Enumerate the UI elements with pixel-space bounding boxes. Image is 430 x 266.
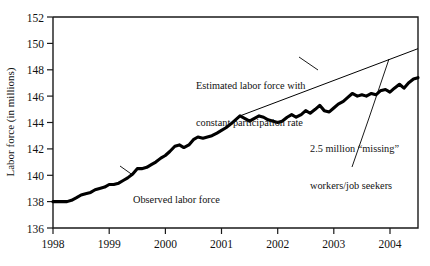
y-tick-142: 142 <box>27 143 45 155</box>
x-tick-2001: 2001 <box>210 238 233 250</box>
y-tick-152: 152 <box>27 12 45 24</box>
x-tick-2003: 2003 <box>322 238 345 250</box>
annotation-observed-text: Observed labor force <box>133 194 220 206</box>
annotation-estimated-labor-force: Estimated labor force with constant part… <box>196 55 306 154</box>
y-tick-136: 136 <box>27 223 45 235</box>
x-tick-2000: 2000 <box>154 238 177 250</box>
y-tick-150: 150 <box>27 38 45 50</box>
annotation-missing-line-2: workers/job seekers <box>310 180 399 192</box>
y-tick-148: 148 <box>27 64 45 76</box>
annotation-observed-labor-force: Observed labor force <box>133 169 220 231</box>
y-tick-140: 140 <box>27 170 45 182</box>
annotation-trend-line-2: constant participation rate <box>196 117 306 129</box>
annotation-trend-line-1: Estimated labor force with <box>196 80 306 92</box>
y-tick-144: 144 <box>27 117 45 129</box>
annotation-missing-line-1: 2.5 million “missing” <box>310 143 399 155</box>
chart-figure: 152 150 148 146 144 142 140 138 136 1998… <box>0 0 430 266</box>
x-tick-2004: 2004 <box>379 238 402 250</box>
y-tick-146: 146 <box>27 91 45 103</box>
y-axis-title: Labor force (in millions) <box>4 67 17 176</box>
y-axis-tick-labels: 152 150 148 146 144 142 140 138 136 <box>27 12 45 235</box>
annotation-missing-workers: 2.5 million “missing” workers/job seeker… <box>310 118 399 217</box>
x-tick-1999: 1999 <box>98 238 121 250</box>
x-tick-1998: 1998 <box>42 238 65 250</box>
y-tick-138: 138 <box>27 196 45 208</box>
x-tick-2002: 2002 <box>266 238 289 250</box>
